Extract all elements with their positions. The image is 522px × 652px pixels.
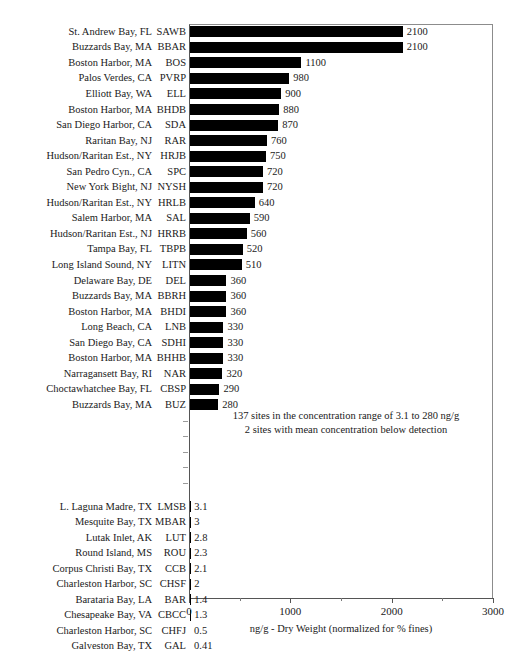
bar-value-label: 2100 (407, 26, 428, 38)
x-axis-minor-tick (240, 598, 241, 601)
bar-row: Boston Harbor, MABHDB880 (0, 102, 522, 118)
bar (190, 42, 403, 53)
bar (190, 73, 289, 84)
bar-row-site-code: GAL (134, 640, 186, 652)
bar-row: Round Island, MSROU2.3 (0, 545, 522, 561)
axis-break-tick (183, 483, 188, 484)
bar-row-bar-group: 3.1 (190, 499, 207, 515)
bar-row-site-code: SDHI (134, 337, 186, 349)
bar-value-label: 750 (270, 150, 286, 162)
bar (190, 197, 255, 208)
bar-value-label: 720 (267, 166, 283, 178)
bar-row: New York Bight, NJNYSH720 (0, 179, 522, 195)
bar-row-site-code: MBAR (134, 516, 186, 528)
bar-row-bar-group: 330 (190, 319, 243, 335)
bar-row-site-label: Hudson/Raritan Est., NY (0, 150, 152, 162)
bar-value-label: 360 (230, 306, 246, 318)
bar-row-site-code: CHFJ (134, 625, 186, 637)
bar-row: Palos Verdes, CAPVRP980 (0, 71, 522, 87)
bar-row-site-label: Raritan Bay, NJ (0, 135, 152, 147)
bar-row: Galveston Bay, TXGAL0.41 (0, 639, 522, 652)
x-axis-tick-label: 3000 (482, 605, 504, 618)
bar-row: Charleston Harbor, SCCHSF2 (0, 576, 522, 592)
bar-value-label: 870 (282, 119, 298, 131)
axis-break-tick (183, 436, 188, 437)
bar-row-site-code: LITN (134, 259, 186, 271)
bar-row: Buzzards Bay, MABBRH360 (0, 288, 522, 304)
bar-row-site-code: SDA (134, 119, 186, 131)
bar-row-site-label: Elliott Bay, WA (0, 88, 152, 100)
bar-row: Delaware Bay, DEDEL360 (0, 273, 522, 289)
bar (190, 368, 222, 379)
axis-break-tick (183, 421, 188, 422)
bar-value-label: 520 (247, 243, 263, 255)
bar-row: Boston Harbor, MABHDI360 (0, 304, 522, 320)
bar-row-bar-group: 320 (190, 366, 242, 382)
bar-row-site-label: San Pedro Cyn., CA (0, 166, 152, 178)
bar-row-site-label: Round Island, MS (0, 547, 152, 559)
bar-row-site-label: Tampa Bay, FL (0, 243, 152, 255)
bar-row-site-label: San Diego Bay, CA (0, 337, 152, 349)
bar-row: Boston Harbor, MABHHB330 (0, 350, 522, 366)
bar-row-bar-group: 760 (190, 133, 287, 149)
bar-row-bar-group: 330 (190, 335, 243, 351)
bar-row: Mesquite Bay, TXMBAR3 (0, 514, 522, 530)
bar-row-bar-group: 2.3 (190, 545, 207, 561)
bar-row: Barataria Bay, LABAR1.4 (0, 592, 522, 608)
bar (190, 88, 281, 99)
bar-value-label: 760 (271, 135, 287, 147)
bar (190, 353, 223, 364)
bar (190, 135, 267, 146)
bar-row-bar-group: 360 (190, 304, 246, 320)
bar-value-label: 720 (267, 181, 283, 193)
bar-row-site-code: PVRP (134, 72, 186, 84)
bar-row-site-label: Barataria Bay, LA (0, 594, 152, 606)
bar-row-bar-group: 880 (190, 102, 299, 118)
bar-row-site-code: BUZ (134, 399, 186, 411)
bar-row-bar-group: 2100 (190, 40, 428, 56)
bar-row-site-code: HRRB (134, 228, 186, 240)
x-axis-title: ng/g - Dry Weight (normalized for % fine… (189, 623, 493, 634)
bar-value-label: 0.41 (194, 640, 212, 652)
bar-row: Salem Harbor, MASAL590 (0, 211, 522, 227)
bar-value-label: 330 (227, 337, 243, 349)
bar-row-site-label: St. Andrew Bay, FL (0, 26, 152, 38)
bar-row-bar-group: 590 (190, 211, 270, 227)
bar-row-site-label: L. Laguna Madre, TX (0, 501, 152, 513)
bar-row: Hudson/Raritan Est., NYHRLB640 (0, 195, 522, 211)
bar-row-site-label: Charleston Harbor, SC (0, 625, 152, 637)
bar-row-site-code: ELL (134, 88, 186, 100)
bar-row-bar-group: 2 (190, 576, 199, 592)
bar-row: Lutak Inlet, AKLUT2.8 (0, 530, 522, 546)
bar (190, 291, 226, 302)
bar-row-bar-group: 1100 (190, 55, 326, 71)
bar-value-label: 510 (246, 259, 262, 271)
bar-row-bar-group: 2.8 (190, 530, 207, 546)
bar (190, 104, 279, 115)
axis-break-tick (183, 467, 188, 468)
bar (190, 306, 226, 317)
bar-row-site-label: Mesquite Bay, TX (0, 516, 152, 528)
chart-annotation: 137 sites in the concentration range of … (196, 409, 496, 436)
bar-row-site-code: BBRH (134, 290, 186, 302)
bar-row-site-label: New York Bight, NJ (0, 181, 152, 193)
bar-row-site-label: Lutak Inlet, AK (0, 532, 152, 544)
bar-row-site-label: Boston Harbor, MA (0, 306, 152, 318)
bar-row: Chesapeake Bay, VACBCC1.3 (0, 608, 522, 624)
bar (190, 384, 219, 395)
bar (190, 120, 278, 131)
bar-row-site-code: RAR (134, 135, 186, 147)
x-axis-tick (290, 598, 291, 603)
bar-row-bar-group: 2100 (190, 24, 428, 40)
bar-row-site-code: SPC (134, 166, 186, 178)
bar-row-site-code: SAWB (134, 26, 186, 38)
bar-row-bar-group: 750 (190, 148, 286, 164)
bar (190, 182, 263, 193)
bar-row: Narragansett Bay, RINAR320 (0, 366, 522, 382)
bar-row-site-code: CCB (134, 563, 186, 575)
bar-value-label: 2.8 (194, 532, 207, 544)
bar-row-bar-group: 510 (190, 257, 261, 273)
bar-value-label: 980 (293, 72, 309, 84)
bar-row: Boston Harbor, MABOS1100 (0, 55, 522, 71)
annotation-line-1: 137 sites in the concentration range of … (196, 409, 496, 423)
